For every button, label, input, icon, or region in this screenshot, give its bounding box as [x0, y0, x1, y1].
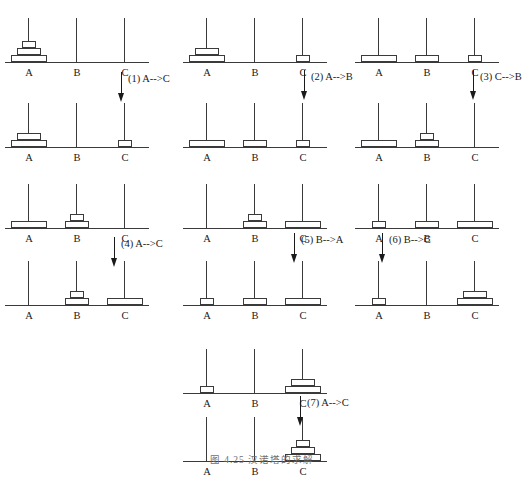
- peg-rod: [76, 18, 77, 62]
- peg-base: [5, 62, 53, 63]
- arrow-down-icon: [290, 233, 299, 265]
- move-label: (3) C-->B: [480, 71, 522, 83]
- hanoi-board: ABC: [358, 257, 498, 319]
- disc-stack: [282, 221, 324, 228]
- peg-c: C: [454, 99, 496, 161]
- peg-label: B: [406, 67, 448, 78]
- disc-stack: [234, 214, 276, 228]
- disc-stack: [186, 298, 228, 305]
- peg-b: B: [56, 180, 98, 242]
- peg-label: C: [454, 233, 496, 244]
- peg-base: [355, 62, 403, 63]
- disc-size-1: [372, 221, 386, 228]
- peg-label: B: [234, 310, 276, 321]
- peg-label: B: [234, 152, 276, 163]
- peg-base: [183, 147, 231, 148]
- peg-label: B: [406, 310, 448, 321]
- peg-base: [403, 305, 451, 306]
- peg-base: [403, 147, 451, 148]
- peg-a: A: [358, 257, 400, 319]
- peg-a: A: [358, 14, 400, 76]
- peg-label: C: [282, 310, 324, 321]
- disc-size-2: [415, 140, 439, 147]
- peg-label: A: [8, 152, 50, 163]
- move-label: (4) A-->C: [121, 238, 163, 250]
- peg-a: A: [8, 180, 50, 242]
- disc-size-3: [361, 140, 397, 147]
- disc-stack: [8, 133, 50, 147]
- peg-rod: [426, 261, 427, 305]
- disc-size-3: [457, 221, 493, 228]
- disc-stack: [234, 140, 276, 147]
- disc-size-3: [189, 140, 225, 147]
- arrow-head: [470, 91, 476, 100]
- arrow-down-icon: [378, 233, 387, 265]
- disc-stack: [8, 41, 50, 62]
- disc-stack: [282, 140, 324, 147]
- peg-base: [183, 62, 231, 63]
- peg-base: [451, 147, 499, 148]
- peg-label: C: [104, 152, 146, 163]
- peg-label: B: [56, 310, 98, 321]
- disc-stack: [186, 48, 228, 62]
- peg-rod: [206, 184, 207, 228]
- disc-size-3: [457, 298, 493, 305]
- disc-stack: [282, 379, 324, 393]
- hanoi-board: ABC: [358, 99, 498, 161]
- peg-label: C: [454, 310, 496, 321]
- peg-c: C: [454, 257, 496, 319]
- disc-size-1: [200, 298, 214, 305]
- disc-size-1: [468, 55, 482, 62]
- peg-c: C: [454, 14, 496, 76]
- peg-base: [5, 147, 53, 148]
- peg-base: [231, 393, 279, 394]
- disc-stack: [186, 140, 228, 147]
- peg-base: [279, 305, 327, 306]
- hanoi-board: ABC: [186, 99, 326, 161]
- peg-a: A: [186, 14, 228, 76]
- disc-size-1: [296, 140, 310, 147]
- arrow-head: [291, 254, 297, 263]
- peg-a: A: [186, 257, 228, 319]
- move-label: (6) B-->C: [389, 234, 431, 246]
- peg-b: B: [406, 99, 448, 161]
- disc-size-3: [11, 55, 47, 62]
- disc-size-1: [296, 55, 310, 62]
- disc-stack: [454, 291, 496, 305]
- peg-base: [403, 228, 451, 229]
- disc-stack: [234, 298, 276, 305]
- disc-size-2: [17, 48, 41, 55]
- peg-label: B: [406, 152, 448, 163]
- peg-rod: [124, 184, 125, 228]
- disc-stack: [358, 221, 400, 228]
- peg-base: [355, 228, 403, 229]
- peg-rod: [28, 261, 29, 305]
- peg-label: A: [8, 67, 50, 78]
- hanoi-board: ABC: [8, 180, 148, 242]
- disc-size-2: [65, 221, 89, 228]
- disc-size-3: [361, 55, 397, 62]
- peg-b: B: [234, 14, 276, 76]
- arrow-down-icon: [296, 396, 305, 428]
- peg-base: [183, 393, 231, 394]
- arrow-down-icon: [469, 70, 478, 102]
- peg-base: [451, 228, 499, 229]
- disc-stack: [56, 291, 98, 305]
- peg-base: [355, 147, 403, 148]
- disc-size-3: [285, 386, 321, 393]
- disc-stack: [104, 298, 146, 305]
- peg-label: A: [186, 398, 228, 409]
- disc-size-3: [189, 55, 225, 62]
- peg-label: B: [56, 233, 98, 244]
- move-label: (1) A-->C: [128, 73, 170, 85]
- peg-base: [231, 228, 279, 229]
- disc-size-3: [285, 221, 321, 228]
- peg-a: A: [186, 345, 228, 407]
- peg-b: B: [234, 257, 276, 319]
- hanoi-board: ABC: [358, 14, 498, 76]
- hanoi-board: ABC: [186, 345, 326, 407]
- disc-stack: [406, 221, 448, 228]
- peg-base: [5, 305, 53, 306]
- peg-c: C: [282, 99, 324, 161]
- peg-base: [53, 147, 101, 148]
